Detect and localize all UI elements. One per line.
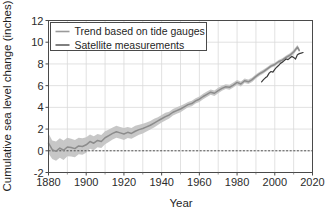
y-tick-label: 12 [31,15,43,27]
chart-canvas: 18801900192019401960198020002020 -202468… [0,0,331,213]
x-tick-label: 1980 [225,176,249,188]
y-tick-label: -2 [34,167,44,179]
legend-label[interactable]: Trend based on tide gauges [75,25,205,37]
legend-label[interactable]: Satellite measurements [75,39,185,51]
y-axis-title: Cumulative sea level change (inches) [1,0,13,191]
y-tick-label: 8 [37,58,43,70]
y-tick-label: 10 [31,36,43,48]
x-tick-label: 1900 [74,176,98,188]
y-tick-label: 2 [37,123,43,135]
y-tick-label: 0 [37,145,43,157]
y-tick-label: 6 [37,80,43,92]
chart-legend[interactable]: Trend based on tide gaugesSatellite meas… [51,23,207,51]
x-tick-label: 1960 [187,176,211,188]
x-tick-label: 2000 [263,176,287,188]
x-tick-label: 1940 [149,176,173,188]
x-axis-title: Year [169,197,192,209]
sea-level-chart-figure: 18801900192019401960198020002020 -202468… [0,0,331,213]
y-tick-label: 4 [37,101,43,113]
x-tick-label: 2020 [300,176,324,188]
x-tick-label: 1920 [112,176,136,188]
